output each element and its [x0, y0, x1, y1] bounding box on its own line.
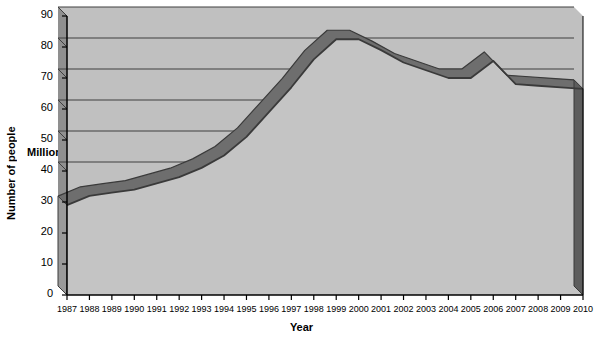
x-tick-label-1990: 1990	[122, 304, 146, 314]
y-tick-label-30: 30	[23, 194, 53, 206]
x-tick-label-1993: 1993	[190, 304, 214, 314]
x-tick-label-1996: 1996	[257, 304, 281, 314]
y-tick-label-80: 80	[23, 39, 53, 51]
x-tick-label-2003: 2003	[414, 304, 438, 314]
x-tick-label-2004: 2004	[436, 304, 460, 314]
x-tick-label-2000: 2000	[347, 304, 371, 314]
y-tick-label-90: 90	[23, 8, 53, 20]
x-tick-label-1999: 1999	[324, 304, 348, 314]
x-tick-label-2008: 2008	[526, 304, 550, 314]
x-tick-label-1997: 1997	[279, 304, 303, 314]
x-tick-label-1989: 1989	[100, 304, 124, 314]
x-tick-label-1987: 1987	[55, 304, 79, 314]
x-tick-label-1995: 1995	[234, 304, 258, 314]
x-tick-label-2002: 2002	[392, 304, 416, 314]
chart-plot-area	[0, 0, 603, 341]
x-tick-label-2010: 2010	[571, 304, 595, 314]
x-tick-label-1988: 1988	[77, 304, 101, 314]
y-tick-label-60: 60	[23, 101, 53, 113]
x-tick-label-2009: 2009	[549, 304, 573, 314]
x-tick-label-2007: 2007	[504, 304, 528, 314]
area-right-cap	[574, 80, 583, 295]
x-tick-label-1998: 1998	[302, 304, 326, 314]
x-tick-label-1991: 1991	[145, 304, 169, 314]
plot-top-ledge	[58, 7, 583, 16]
y-tick-label-20: 20	[23, 225, 53, 237]
y-tick-label-10: 10	[23, 256, 53, 268]
area-chart: Number of people Millions Year 010203040…	[0, 0, 603, 341]
area-left-cap	[58, 196, 67, 295]
y-tick-label-50: 50	[23, 132, 53, 144]
y-tick-label-70: 70	[23, 70, 53, 82]
x-tick-label-1992: 1992	[167, 304, 191, 314]
x-tick-label-1994: 1994	[212, 304, 236, 314]
y-tick-label-0: 0	[23, 287, 53, 299]
x-tick-label-2001: 2001	[369, 304, 393, 314]
x-tick-label-2005: 2005	[459, 304, 483, 314]
x-tick-label-2006: 2006	[481, 304, 505, 314]
y-tick-label-40: 40	[23, 163, 53, 175]
